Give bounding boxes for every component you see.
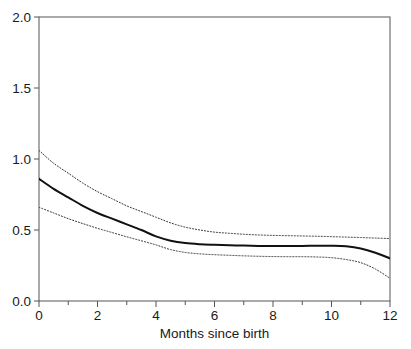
x-tick-label: 2 <box>94 308 102 323</box>
y-tick-label: 0.0 <box>12 294 31 309</box>
y-axis-tick-labels: 0.00.51.01.52.0 <box>12 10 31 309</box>
x-tick-label: 8 <box>269 308 277 323</box>
x-axis-tick-labels: 024681012 <box>35 308 397 323</box>
y-tick-label: 1.0 <box>12 152 31 167</box>
x-axis-ticks <box>39 301 390 307</box>
x-tick-label: 6 <box>211 308 219 323</box>
y-tick-label: 1.5 <box>12 81 31 96</box>
x-axis-title: Months since birth <box>160 326 270 341</box>
y-tick-label: 2.0 <box>12 10 31 25</box>
x-tick-label: 12 <box>382 308 397 323</box>
y-axis-ticks <box>34 17 39 301</box>
x-tick-label: 4 <box>152 308 160 323</box>
x-tick-label: 10 <box>324 308 339 323</box>
x-tick-label: 0 <box>35 308 43 323</box>
chart-container: 0.00.51.01.52.0 024681012 Months since b… <box>0 0 411 349</box>
line-chart: 0.00.51.01.52.0 024681012 Months since b… <box>0 0 411 349</box>
y-tick-label: 0.5 <box>12 223 31 238</box>
